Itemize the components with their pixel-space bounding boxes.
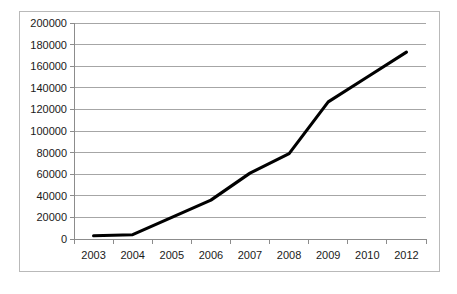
y-axis-tick-label: 60000 <box>36 168 67 180</box>
x-axis-tick-label: 2006 <box>199 249 223 261</box>
x-axis-tick-label: 2007 <box>238 249 262 261</box>
chart-figure: 0200004000060000800001000001200001400001… <box>19 11 440 272</box>
x-axis-tick-label: 2004 <box>120 249 144 261</box>
y-axis-tick-label: 20000 <box>36 211 67 223</box>
y-axis-tick-label: 120000 <box>30 103 67 115</box>
y-axis-tick-label: 80000 <box>36 147 67 159</box>
y-axis-tick-label: 140000 <box>30 82 67 94</box>
y-axis-tick-label: 0 <box>61 233 67 245</box>
x-axis-tick-label: 2012 <box>394 249 418 261</box>
x-axis-tick-label: 2009 <box>316 249 340 261</box>
y-axis-tick-label: 160000 <box>30 60 67 72</box>
y-axis-tick-label: 40000 <box>36 190 67 202</box>
y-axis-tick-label: 100000 <box>30 125 67 137</box>
x-axis-tick-label: 2005 <box>160 249 184 261</box>
x-axis-tick-label: 2008 <box>277 249 301 261</box>
x-axis-tick-label: 2010 <box>355 249 379 261</box>
chart-canvas: 0200004000060000800001000001200001400001… <box>20 12 441 273</box>
data-series-line <box>94 52 407 236</box>
x-axis-tick-label: 2003 <box>81 249 105 261</box>
y-axis-tick-label: 200000 <box>30 17 67 29</box>
y-axis-tick-label: 180000 <box>30 39 67 51</box>
